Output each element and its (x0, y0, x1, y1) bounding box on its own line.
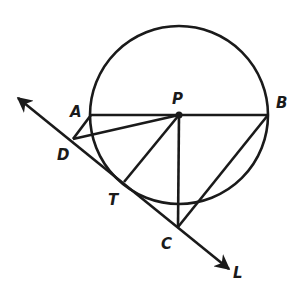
segment-pc (178, 115, 179, 227)
diagram-svg: A P B D T C L (0, 0, 299, 292)
label-l: L (233, 264, 243, 282)
label-a: A (69, 103, 82, 121)
label-p: P (172, 90, 183, 108)
geometry-diagram: A P B D T C L (0, 0, 299, 292)
segment-bc (178, 115, 268, 227)
label-b: B (276, 94, 287, 112)
label-t: T (108, 191, 120, 209)
label-c: C (161, 235, 172, 253)
line-l (18, 98, 229, 269)
label-d: D (57, 146, 69, 164)
center-point-p (176, 112, 183, 119)
